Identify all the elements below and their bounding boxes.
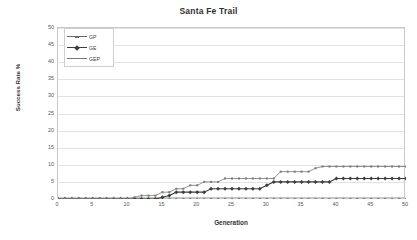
data-point-gp bbox=[342, 198, 344, 199]
legend-item-gp[interactable]: GP bbox=[67, 31, 111, 42]
data-point-ge bbox=[209, 187, 213, 191]
data-point-gep bbox=[315, 167, 317, 169]
y-axis-tick-labels: 05101520253035404550 bbox=[32, 27, 54, 198]
data-point-ge bbox=[404, 177, 406, 181]
data-point-gep bbox=[182, 188, 184, 190]
data-point-gep bbox=[141, 195, 143, 197]
legend-marker-icon bbox=[67, 32, 87, 41]
y-tick-label: 45 bbox=[48, 41, 54, 47]
data-point-ge bbox=[244, 187, 248, 191]
x-tick-label: 25 bbox=[228, 201, 234, 207]
data-point-ge bbox=[286, 180, 290, 184]
data-point-ge bbox=[279, 180, 283, 184]
data-point-ge bbox=[160, 195, 164, 199]
legend-label: GP bbox=[87, 34, 97, 40]
data-point-gp bbox=[189, 198, 191, 199]
data-point-gp bbox=[363, 198, 365, 199]
data-point-ge bbox=[174, 190, 178, 194]
data-point-gep bbox=[113, 198, 115, 199]
x-tick-label: 10 bbox=[124, 201, 130, 207]
data-point-ge bbox=[153, 197, 157, 199]
data-point-ge bbox=[314, 180, 318, 184]
x-tick-label: 0 bbox=[56, 201, 59, 207]
data-point-gep bbox=[196, 184, 198, 186]
data-point-gp bbox=[168, 198, 170, 199]
data-point-gp bbox=[321, 198, 323, 199]
legend-item-ge[interactable]: GE bbox=[67, 42, 111, 53]
data-point-gep bbox=[224, 177, 226, 179]
data-point-gep bbox=[252, 177, 254, 179]
data-point-ge bbox=[230, 187, 234, 191]
data-point-gep bbox=[308, 171, 310, 173]
data-point-ge bbox=[307, 180, 311, 184]
data-point-gep bbox=[78, 198, 80, 199]
data-point-gep bbox=[321, 166, 323, 168]
x-axis-title: Generation bbox=[57, 219, 405, 226]
data-point-ge bbox=[321, 180, 325, 184]
data-point-gep bbox=[363, 166, 365, 168]
data-point-gep bbox=[335, 166, 337, 168]
x-tick-label: 15 bbox=[158, 201, 164, 207]
x-tick-label: 40 bbox=[332, 201, 338, 207]
data-point-gp bbox=[259, 198, 261, 199]
data-point-gp bbox=[335, 198, 337, 199]
data-point-gp bbox=[287, 198, 289, 199]
data-point-gep bbox=[349, 166, 351, 168]
data-point-ge bbox=[216, 187, 220, 191]
data-point-ge bbox=[300, 180, 304, 184]
data-point-gp bbox=[301, 198, 303, 199]
data-point-ge bbox=[376, 177, 380, 181]
data-point-gp bbox=[377, 198, 379, 199]
data-point-gp bbox=[196, 198, 198, 199]
data-point-gp bbox=[307, 198, 309, 199]
y-tick-label: 5 bbox=[51, 178, 54, 184]
data-point-gep bbox=[287, 171, 289, 173]
chart-title: Santa Fe Trail bbox=[0, 6, 417, 16]
data-point-gp bbox=[391, 198, 393, 199]
data-point-gep bbox=[398, 166, 400, 168]
data-point-ge bbox=[195, 190, 199, 194]
data-point-gp bbox=[314, 198, 316, 199]
data-point-ge bbox=[265, 183, 269, 187]
data-point-gep bbox=[391, 166, 393, 168]
y-tick-label: 50 bbox=[48, 24, 54, 30]
data-point-gep bbox=[217, 181, 219, 183]
data-point-gep bbox=[147, 195, 149, 197]
data-point-ge bbox=[355, 177, 359, 181]
data-point-gp bbox=[203, 198, 205, 199]
data-point-gep bbox=[64, 198, 66, 199]
data-point-gep bbox=[92, 198, 94, 199]
data-point-ge bbox=[397, 177, 401, 181]
data-point-gp bbox=[210, 198, 212, 199]
data-point-ge bbox=[383, 177, 387, 181]
data-point-gep bbox=[58, 198, 59, 199]
data-point-gp bbox=[273, 198, 275, 199]
data-point-ge bbox=[390, 177, 394, 181]
data-point-gp bbox=[398, 198, 400, 199]
data-point-gp bbox=[356, 198, 358, 199]
y-axis-title: Success Rate % bbox=[14, 43, 21, 133]
chart-container: Santa Fe Trail Success Rate % 0510152025… bbox=[0, 0, 417, 240]
y-tick-label: 35 bbox=[48, 75, 54, 81]
data-point-gep bbox=[99, 198, 101, 199]
y-tick-label: 30 bbox=[48, 92, 54, 98]
data-point-gep bbox=[210, 181, 212, 183]
x-tick-label: 45 bbox=[367, 201, 373, 207]
data-point-gep bbox=[85, 198, 87, 199]
data-point-gp bbox=[175, 198, 177, 199]
data-point-gep bbox=[377, 166, 379, 168]
data-point-ge bbox=[327, 180, 331, 184]
data-point-gp bbox=[224, 198, 226, 199]
y-tick-label: 0 bbox=[51, 195, 54, 201]
data-point-ge bbox=[341, 177, 345, 181]
data-point-gep bbox=[127, 198, 129, 199]
data-point-gp bbox=[245, 198, 247, 199]
data-point-gp bbox=[238, 198, 240, 199]
legend-marker-icon bbox=[67, 43, 87, 52]
data-point-gep bbox=[120, 198, 122, 199]
data-point-gp bbox=[405, 198, 406, 199]
data-point-gp bbox=[252, 198, 254, 199]
data-point-gep bbox=[245, 177, 247, 179]
data-point-ge bbox=[362, 177, 366, 181]
legend-item-gep[interactable]: GEP bbox=[67, 53, 111, 64]
